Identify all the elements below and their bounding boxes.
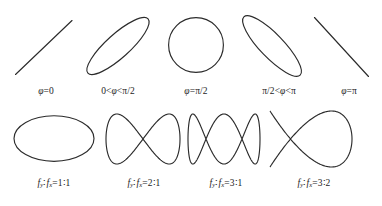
curve-line-falling (315, 18, 369, 77)
caption-phase-pi-text: φ=π (341, 86, 357, 96)
caption-phase-pi: φ=π (316, 86, 382, 96)
curve-wide-ellipse (14, 116, 94, 162)
curve-narrow-ellipse-falling (235, 10, 308, 82)
figure-ratio-3-2 (268, 108, 354, 170)
caption-phase-half-pi: φ=π/2 (152, 86, 240, 96)
caption-ratio-1-1-text: fy∶fx=1∶1 (38, 178, 71, 188)
caption-phase-between-0-and-half-pi: 0<φ<π/2 (72, 86, 164, 96)
caption-ratio-3-1-text: fy∶fx=3∶1 (210, 178, 243, 188)
figure-phase-half-pi (160, 10, 232, 82)
caption-phase-0-text: φ=0 (38, 86, 54, 96)
caption-ratio-3-2-text: fy∶fx=3∶2 (298, 178, 331, 188)
caption-ratio-2-1-text: fy∶fx=2∶1 (128, 178, 161, 188)
caption-ratio-2-1: fy∶fx=2∶1 (98, 177, 190, 188)
caption-phase-between-half-pi-and-pi: π/2<φ<π (232, 86, 326, 96)
curve-lissajous-3-2 (270, 111, 352, 167)
caption-ratio-3-1: fy∶fx=3∶1 (180, 177, 272, 188)
curve-narrow-ellipse-rising (80, 10, 156, 82)
figure-ratio-1-1 (10, 110, 98, 168)
curve-circle (169, 18, 224, 73)
lissajous-figure-sheet: φ=0 0<φ<π/2 φ=π/2 π/2<φ<π φ=π fy∶fx=1∶1 … (0, 0, 382, 206)
figure-phase-between-0-and-half-pi (78, 10, 158, 82)
curve-lissajous-2-1 (106, 114, 180, 164)
figure-phase-between-half-pi-and-pi (232, 10, 312, 82)
caption-phase-half-pi-text: φ=π/2 (184, 86, 207, 96)
figure-ratio-3-1 (186, 110, 262, 168)
curve-lissajous-3-1 (188, 114, 260, 164)
figure-phase-0 (6, 10, 86, 82)
caption-ratio-3-2: fy∶fx=3∶2 (266, 177, 362, 188)
curve-line-rising (16, 21, 73, 75)
figure-ratio-2-1 (104, 110, 182, 168)
caption-ratio-1-1: fy∶fx=1∶1 (6, 177, 102, 188)
figure-phase-pi (310, 10, 376, 82)
caption-phase-between-0-and-half-pi-text: 0<φ<π/2 (101, 86, 135, 96)
caption-phase-between-half-pi-and-pi-text: π/2<φ<π (262, 86, 296, 96)
